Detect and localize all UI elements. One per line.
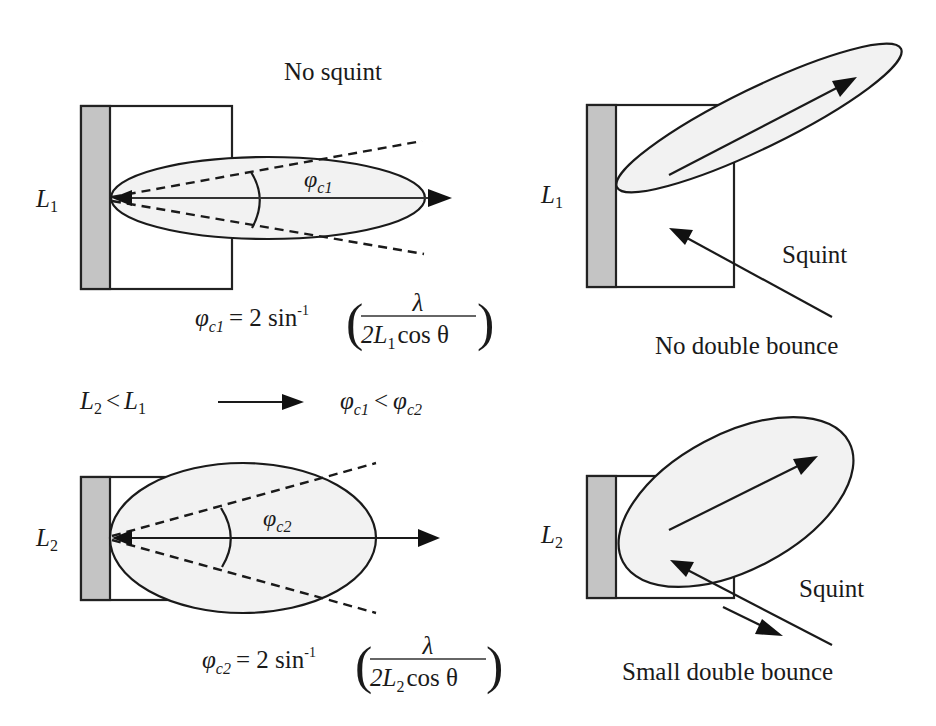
antenna-plate xyxy=(81,106,110,289)
svg-text:): ) xyxy=(477,294,494,352)
antenna-plate xyxy=(81,477,110,600)
svg-text:): ) xyxy=(486,637,503,695)
panel-no-squint-l1: φc1 L1 φc1= 2 sin-1 ( λ 2L1cos θ ) xyxy=(35,106,494,352)
squint-beamwidth-diagram: No squint φc1 L1 φc1= 2 sin-1 ( λ 2 xyxy=(0,0,936,726)
length-label-l2: L2 xyxy=(540,521,563,551)
panel-squint-l2: L2 Squint Small double bounce xyxy=(540,382,881,685)
svg-text:2L2cos θ: 2L2cos θ xyxy=(370,664,458,695)
arrowhead-icon xyxy=(282,394,304,410)
panel-squint-l1: L1 Squint No double bounce xyxy=(540,22,914,359)
length-label-l1: L1 xyxy=(35,185,58,215)
arrowhead-right-icon xyxy=(418,529,440,547)
relation-row: L2<L1 φc1<φc2 xyxy=(79,387,422,418)
antenna-plate xyxy=(587,105,616,287)
length-label-l2: L2 xyxy=(35,524,58,554)
squint-label: Squint xyxy=(799,575,864,602)
relation-angles: φc1<φc2 xyxy=(340,387,422,418)
antenna-plate xyxy=(587,476,616,598)
squint-label: Squint xyxy=(782,241,847,268)
diagram-title: No squint xyxy=(284,58,382,85)
bounce-label: No double bounce xyxy=(655,332,838,359)
bounce-label: Small double bounce xyxy=(622,658,833,685)
arrowhead-right-icon xyxy=(428,189,452,207)
svg-text:λ: λ xyxy=(422,632,434,659)
svg-text:φc1= 2 sin-1: φc1= 2 sin-1 xyxy=(195,303,309,335)
panel-no-squint-l2: φc2 L2 φc2= 2 sin-1 ( λ 2L2cos θ ) xyxy=(35,463,503,695)
length-label-l1: L1 xyxy=(540,181,563,211)
formula-phi-c2: φc2= 2 sin-1 ( λ 2L2cos θ ) xyxy=(202,632,503,695)
svg-text:φc2= 2 sin-1: φc2= 2 sin-1 xyxy=(202,645,316,677)
svg-text:λ: λ xyxy=(412,289,424,316)
arrowhead-icon xyxy=(755,619,783,636)
svg-text:2L1cos θ: 2L1cos θ xyxy=(361,321,449,352)
relation-lengths: L2<L1 xyxy=(79,387,146,417)
formula-phi-c1: φc1= 2 sin-1 ( λ 2L1cos θ ) xyxy=(195,289,494,352)
